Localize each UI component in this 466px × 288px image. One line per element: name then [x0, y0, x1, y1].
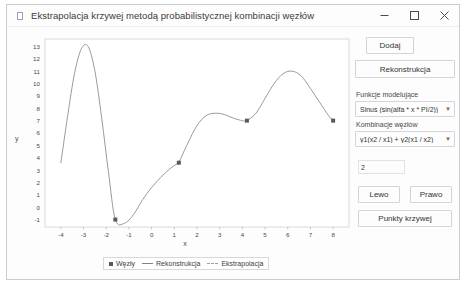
svg-text:1: 1 — [37, 191, 41, 198]
svg-text:-1: -1 — [126, 231, 132, 238]
svg-text:7: 7 — [309, 231, 313, 238]
minimize-icon[interactable] — [369, 5, 399, 27]
svg-text:-1: -1 — [34, 216, 40, 223]
window-controls — [369, 5, 459, 27]
close-icon[interactable] — [429, 5, 459, 27]
svg-text:-4: -4 — [58, 231, 64, 238]
svg-text:3: 3 — [37, 167, 41, 174]
svg-text:8: 8 — [331, 231, 335, 238]
model-functions-label: Funkcje modelujące — [356, 91, 418, 98]
node-combination-label: Kombinacje węzłów — [356, 121, 417, 128]
dashed-line-marker-icon — [207, 263, 218, 264]
app-window: Ekstrapolacja krzywej metodą probabilist… — [6, 4, 460, 280]
legend-label-rekonstrukcja: Rekonstrukcja — [156, 260, 200, 267]
plot-area: -1012345678910111213-4-3-2-1012345678 — [15, 33, 355, 251]
svg-text:-2: -2 — [103, 231, 109, 238]
svg-text:0: 0 — [150, 231, 154, 238]
svg-text:2: 2 — [37, 179, 41, 186]
svg-text:8: 8 — [37, 105, 41, 112]
app-icon — [13, 9, 27, 23]
legend-item-ekstrapolacja: Ekstrapolacja — [207, 260, 263, 267]
svg-text:6: 6 — [37, 129, 41, 136]
svg-text:5: 5 — [37, 142, 41, 149]
model-functions-select[interactable]: Sinus (sin(alfa * x * PI/2)) ▼ — [355, 101, 455, 117]
chart-panel: -1012345678910111213-4-3-2-1012345678 y … — [15, 33, 355, 273]
maximize-icon[interactable] — [399, 5, 429, 27]
svg-text:9: 9 — [37, 92, 41, 99]
svg-text:-3: -3 — [81, 231, 87, 238]
legend-item-wezly: Węzły — [109, 260, 135, 267]
control-panel: Dodaj Rekonstrukcja Funkcje modelujące S… — [355, 33, 455, 277]
svg-text:11: 11 — [34, 68, 41, 75]
curve-plot: -1012345678910111213-4-3-2-1012345678 — [15, 33, 355, 251]
svg-text:1: 1 — [173, 231, 177, 238]
window-title: Ekstrapolacja krzywej metodą probabilist… — [31, 10, 369, 21]
legend-item-rekonstrukcja: Rekonstrukcja — [142, 260, 200, 267]
x-axis-label: x — [15, 240, 355, 247]
square-marker-icon — [109, 262, 113, 266]
degree-value: 2 — [359, 164, 365, 171]
chevron-down-icon: ▼ — [442, 106, 454, 112]
svg-text:13: 13 — [33, 43, 40, 50]
window-content: -1012345678910111213-4-3-2-1012345678 y … — [7, 27, 459, 279]
model-functions-value: Sinus (sin(alfa * x * PI/2)) — [356, 106, 442, 113]
title-bar: Ekstrapolacja krzywej metodą probabilist… — [7, 5, 459, 27]
node-combination-value: y1(x2 / x1) + y2(x1 / x2) — [356, 136, 442, 143]
svg-text:12: 12 — [33, 55, 40, 62]
svg-text:7: 7 — [37, 117, 41, 124]
svg-text:6: 6 — [286, 231, 290, 238]
left-button[interactable]: Lewo — [358, 186, 400, 203]
reconstruct-button[interactable]: Rekonstrukcja — [355, 60, 455, 78]
chart-legend: Węzły Rekonstrukcja Ekstrapolacja — [103, 257, 269, 270]
add-button[interactable]: Dodaj — [366, 37, 414, 54]
legend-label-ekstrapolacja: Ekstrapolacja — [221, 260, 263, 267]
svg-text:4: 4 — [241, 231, 245, 238]
svg-text:5: 5 — [263, 231, 267, 238]
svg-text:2: 2 — [195, 231, 199, 238]
node-combination-select[interactable]: y1(x2 / x1) + y2(x1 / x2) ▼ — [355, 131, 455, 147]
svg-text:4: 4 — [37, 154, 41, 161]
degree-input[interactable]: 2 — [358, 160, 405, 174]
svg-text:10: 10 — [33, 80, 40, 87]
curve-points-button[interactable]: Punkty krzywej — [358, 210, 452, 227]
right-button[interactable]: Prawo — [410, 186, 452, 203]
chevron-down-icon: ▼ — [442, 136, 454, 142]
legend-label-wezly: Węzły — [116, 260, 135, 267]
svg-text:3: 3 — [218, 231, 222, 238]
svg-text:0: 0 — [37, 204, 41, 211]
line-marker-icon — [142, 263, 153, 264]
y-axis-label: y — [15, 135, 19, 142]
